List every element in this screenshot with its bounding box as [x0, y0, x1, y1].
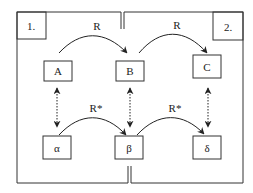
svg-text:R: R — [173, 19, 181, 31]
edge-beta-delta: R* — [137, 102, 204, 135]
svg-text:A: A — [54, 65, 62, 77]
svg-text:δ: δ — [204, 142, 209, 154]
node-delta: δ — [193, 136, 221, 159]
svg-text:R*: R* — [90, 102, 103, 114]
svg-text:B: B — [126, 65, 133, 77]
svg-text:R: R — [93, 20, 101, 32]
node-C: C — [193, 55, 221, 78]
node-B: B — [116, 61, 144, 81]
edge-alpha-beta: R* — [59, 102, 126, 135]
node-A: A — [44, 61, 72, 81]
svg-text:2.: 2. — [224, 21, 233, 33]
svg-text:C: C — [203, 61, 210, 73]
node-alpha: α — [43, 136, 71, 159]
svg-text:β: β — [126, 142, 132, 154]
edge-B-C: R — [139, 19, 207, 53]
region-label-2: 2. — [213, 12, 243, 40]
edge-A-B: R — [59, 20, 127, 53]
svg-text:1.: 1. — [27, 20, 36, 32]
node-beta: β — [115, 136, 143, 159]
relation-diagram: 1. 2. A B C α β δ R R R* R* — [0, 0, 253, 193]
region-label-1: 1. — [17, 12, 46, 39]
svg-text:α: α — [54, 142, 60, 154]
svg-text:R*: R* — [169, 102, 182, 114]
